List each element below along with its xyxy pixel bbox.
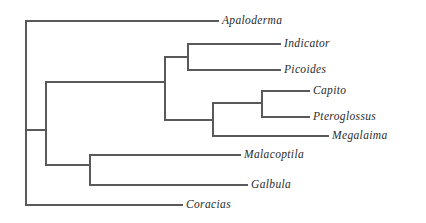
taxon-label-coracias: Coracias <box>186 199 231 211</box>
taxon-label-apaloderma: Apaloderma <box>222 15 282 27</box>
taxon-label-galbula: Galbula <box>251 179 291 191</box>
taxon-label-capito: Capito <box>313 85 346 97</box>
taxon-label-pteroglossus: Pteroglossus <box>313 111 376 123</box>
taxon-label-megalaima: Megalaima <box>332 130 388 142</box>
cladogram-figure: ApalodermaIndicatorPicoidesCapitoPterogl… <box>0 0 426 223</box>
taxon-label-indicator: Indicator <box>284 38 330 50</box>
taxon-label-malacoptila: Malacoptila <box>244 149 304 161</box>
taxon-label-picoides: Picoides <box>284 64 326 76</box>
